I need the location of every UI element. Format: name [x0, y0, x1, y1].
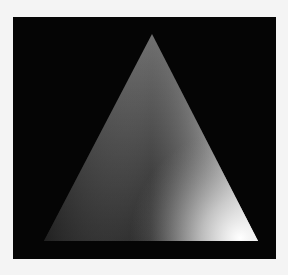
triangle-highlight: [44, 34, 258, 241]
triangle-figure: [0, 0, 288, 275]
